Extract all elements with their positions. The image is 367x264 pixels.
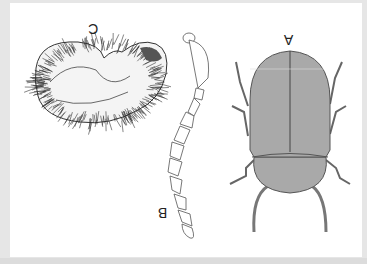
larva-hair xyxy=(122,39,126,46)
label-c: C xyxy=(88,22,98,36)
beetle-illustration xyxy=(230,51,350,232)
antenna-illustration xyxy=(168,33,209,238)
label-a: A xyxy=(284,33,293,47)
larva-illustration xyxy=(24,32,171,135)
larva-hair xyxy=(119,35,123,48)
larva-hair xyxy=(122,121,123,133)
label-b: B xyxy=(158,206,167,220)
figure-drawing xyxy=(0,0,367,264)
larva-hair xyxy=(114,34,119,44)
larva-hair xyxy=(109,39,112,48)
